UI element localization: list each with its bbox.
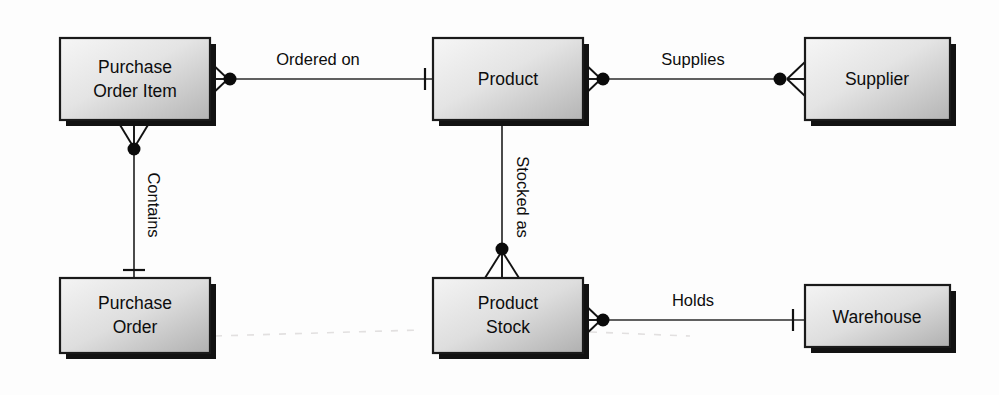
scan-artifact [590,332,690,336]
relationship-stocked-as[interactable]: Stocked as [485,120,532,278]
relationship-label-supplies: Supplies [661,50,724,68]
entity-label-line1: Supplier [845,69,909,89]
relationship-label-contains: Contains [145,172,163,237]
relationship-ordered-on[interactable]: Ordered on [210,50,433,96]
entity-box [60,38,210,120]
optional-dot [224,73,237,86]
entity-label-line1: Product [478,69,538,89]
optional-dot [597,73,610,86]
entity-purchase-order[interactable]: Purchase Order [60,278,216,359]
entity-product[interactable]: Product [433,38,589,126]
relationship-label-holds: Holds [672,291,714,309]
entity-label-line2: Order [113,317,158,337]
entity-label-line2: Stock [486,317,530,337]
entity-label-line1: Warehouse [833,307,922,327]
entity-label-line1: Product [478,293,538,313]
optional-dot [496,243,509,256]
er-diagram-svg: Ordered on Supplies [0,0,999,395]
scan-artifact [215,330,420,336]
relationship-holds[interactable]: Holds [583,291,805,337]
entity-label-line2: Order Item [93,81,177,101]
relationship-supplies[interactable]: Supplies [583,50,805,96]
optional-dot [597,314,610,327]
optional-dot [774,73,787,86]
entity-warehouse[interactable]: Warehouse [805,285,956,353]
entity-label-line1: Purchase [98,293,172,313]
entity-label-line1: Purchase [98,57,172,77]
entity-purchase-order-item[interactable]: Purchase Order Item [60,38,216,126]
entity-supplier[interactable]: Supplier [805,38,956,126]
entity-box [60,278,210,353]
relationship-contains[interactable]: Contains [117,120,163,278]
er-diagram-canvas: Ordered on Supplies [0,0,999,395]
relationship-label-ordered-on: Ordered on [276,50,359,68]
entity-box [433,278,583,353]
entity-product-stock[interactable]: Product Stock [433,278,589,359]
crowsfoot-many-supplier [787,62,805,96]
optional-dot [128,143,141,156]
relationship-label-stocked-as: Stocked as [514,156,532,238]
